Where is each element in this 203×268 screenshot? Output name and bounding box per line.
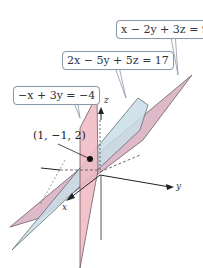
label-plane-3: −x + 3y = −4: [13, 86, 100, 105]
z-axis-label: z: [104, 95, 109, 105]
x-axis-label: x: [62, 202, 67, 212]
intersection-point-label: (1, −1, 2): [33, 129, 86, 142]
z-axis-arrow-icon: [98, 107, 104, 114]
planes-svg: [0, 0, 203, 268]
label-plane-2: 2x − 5y + 5z = 17: [62, 51, 174, 70]
intersection-point-dot: [87, 156, 93, 162]
y-axis-label: y: [176, 181, 181, 191]
three-planes-diagram: x − 2y + 3z = 9 2x − 5y + 5z = 17 −x + 3…: [0, 0, 203, 268]
axis-x-back: [41, 168, 60, 170]
y-axis-arrow-icon: [166, 184, 174, 190]
plane-neg-x-3y-neg-4: [80, 95, 98, 268]
y-axis: [100, 175, 170, 187]
label-plane-1: x − 2y + 3z = 9: [116, 20, 203, 39]
